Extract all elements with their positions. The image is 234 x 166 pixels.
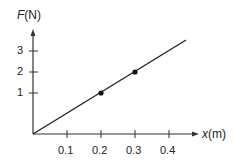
x-axis-arrow-icon (192, 132, 199, 137)
x-tick-label-4: 0.4 (160, 145, 175, 156)
x-tick-label-1: 0.1 (58, 145, 73, 156)
x-axis-unit: (m) (208, 127, 226, 141)
data-point-1 (98, 90, 103, 95)
y-axis-label: F(N) (17, 9, 41, 21)
y-axis-arrow-icon (31, 29, 36, 36)
force-displacement-chart (0, 0, 234, 166)
y-tick-label-2: 2 (17, 66, 23, 77)
x-axis-label: x(m) (202, 128, 226, 140)
data-line (33, 40, 186, 134)
y-axis-unit: (N) (24, 8, 41, 22)
x-tick-label-3: 0.3 (126, 145, 141, 156)
y-tick-label-1: 1 (17, 87, 23, 98)
x-tick-label-2: 0.2 (92, 145, 107, 156)
data-point-2 (132, 69, 137, 74)
y-tick-label-3: 3 (17, 45, 23, 56)
